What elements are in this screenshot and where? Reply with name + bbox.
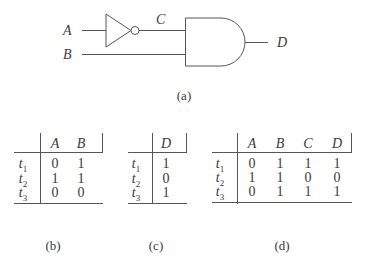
input-a-label: A <box>63 24 72 38</box>
caption-c: (c) <box>149 239 163 252</box>
table-divider <box>212 152 352 153</box>
column-header: A <box>248 137 257 151</box>
table-cell: 1 <box>163 157 170 171</box>
table-cell: 0 <box>334 171 341 185</box>
row-label: t3 <box>132 186 140 205</box>
caption-a: (a) <box>177 89 191 102</box>
row-label: t3 <box>19 186 27 205</box>
table-divider <box>40 133 41 204</box>
table-cell: 0 <box>305 171 312 185</box>
table-divider <box>14 203 103 204</box>
table-cell: 0 <box>163 172 170 186</box>
table-divider <box>128 152 187 153</box>
column-header: D <box>161 137 171 151</box>
table-divider <box>351 133 352 153</box>
table-divider <box>237 133 238 204</box>
and-gate-icon <box>186 18 246 66</box>
table-divider <box>14 152 103 153</box>
logic-circuit <box>0 0 368 100</box>
table-cell: 0 <box>78 186 85 200</box>
table-cell: 1 <box>305 185 312 199</box>
table-cell: 1 <box>163 186 170 200</box>
table-divider <box>102 133 103 153</box>
table-cell: 1 <box>52 172 59 186</box>
column-header: A <box>51 137 60 151</box>
table-cell: 1 <box>277 171 284 185</box>
table-cell: 0 <box>52 157 59 171</box>
column-header: D <box>332 137 342 151</box>
input-b-label: B <box>63 48 72 62</box>
inverter-bubble-icon <box>131 27 139 35</box>
table-divider <box>212 202 352 203</box>
column-header: C <box>303 137 312 151</box>
table-divider <box>152 133 153 204</box>
caption-d: (d) <box>274 239 289 252</box>
table-cell: 1 <box>78 157 85 171</box>
table-cell: 1 <box>334 185 341 199</box>
table-cell: 0 <box>52 186 59 200</box>
table-divider <box>186 133 187 153</box>
table-cell: 1 <box>334 157 341 171</box>
table-cell: 1 <box>249 171 256 185</box>
row-label: t3 <box>216 185 224 204</box>
column-header: B <box>276 137 285 151</box>
intermediate-c-label: C <box>156 13 165 27</box>
output-d-label: D <box>277 36 287 50</box>
column-header: B <box>77 137 86 151</box>
table-cell: 0 <box>249 185 256 199</box>
table-cell: 1 <box>277 185 284 199</box>
not-gate-icon <box>106 14 131 47</box>
table-cell: 0 <box>249 157 256 171</box>
table-cell: 1 <box>305 157 312 171</box>
table-cell: 1 <box>78 172 85 186</box>
table-cell: 1 <box>277 157 284 171</box>
caption-b: (b) <box>45 239 60 252</box>
